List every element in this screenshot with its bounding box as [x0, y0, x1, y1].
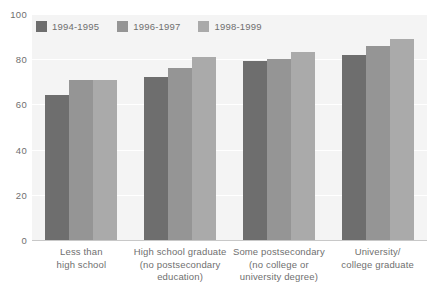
y-tick-label: 100	[0, 10, 27, 20]
bar-1996-1997	[267, 59, 291, 240]
bar-groups	[32, 14, 427, 240]
x-category-label-0: Less than high school	[32, 246, 131, 284]
y-tick-label: 20	[0, 191, 27, 201]
x-category-line: (no college or	[231, 259, 328, 272]
y-tick-label: 40	[0, 146, 27, 156]
bar-1994-1995	[243, 61, 267, 240]
y-tick-label: 80	[0, 55, 27, 65]
bar-1994-1995	[144, 77, 168, 240]
x-category-line: Some postsecondary	[231, 246, 328, 259]
x-axis-labels: Less than high school High school gradua…	[32, 246, 427, 284]
x-axis-baseline	[32, 240, 427, 241]
legend-item-1998-1999: 1998-1999	[198, 21, 261, 32]
bar-1996-1997	[168, 68, 192, 240]
legend-swatch-icon	[198, 21, 209, 32]
bar-1998-1999	[93, 80, 117, 240]
bar-group-university-college-graduate	[328, 14, 427, 240]
x-category-line: High school graduate	[132, 246, 229, 259]
x-category-line: education)	[132, 271, 229, 284]
legend-swatch-icon	[36, 21, 47, 32]
y-tick-label: 0	[0, 236, 27, 246]
legend-label: 1994-1995	[52, 21, 99, 32]
y-tick-label: 60	[0, 100, 27, 110]
bar-group-some-postsecondary	[230, 14, 329, 240]
legend-label: 1998-1999	[214, 21, 261, 32]
x-category-line: Less than	[33, 246, 130, 259]
legend-item-1994-1995: 1994-1995	[36, 21, 99, 32]
bar-chart: 100 80 60 40 20 0	[0, 0, 431, 294]
x-category-label-3: University/ college graduate	[328, 246, 427, 284]
legend-item-1996-1997: 1996-1997	[117, 21, 180, 32]
bar-1996-1997	[69, 80, 93, 240]
legend: 1994-1995 1996-1997 1998-1999	[36, 21, 262, 32]
legend-swatch-icon	[117, 21, 128, 32]
x-category-label-1: High school graduate (no postsecondary e…	[131, 246, 230, 284]
bar-1998-1999	[291, 52, 315, 240]
bar-1994-1995	[45, 95, 69, 240]
x-category-line: University/	[329, 246, 426, 259]
x-category-line: university degree)	[231, 271, 328, 284]
x-category-line: (no postsecondary	[132, 259, 229, 272]
bar-1998-1999	[390, 39, 414, 240]
legend-label: 1996-1997	[133, 21, 180, 32]
bar-1994-1995	[342, 55, 366, 240]
bar-group-high-school-graduate	[131, 14, 230, 240]
x-category-label-2: Some postsecondary (no college or univer…	[230, 246, 329, 284]
bar-group-less-than-high-school	[32, 14, 131, 240]
x-category-line: college graduate	[329, 259, 426, 272]
bar-1998-1999	[192, 57, 216, 240]
x-category-line: high school	[33, 259, 130, 272]
bar-1996-1997	[366, 46, 390, 240]
